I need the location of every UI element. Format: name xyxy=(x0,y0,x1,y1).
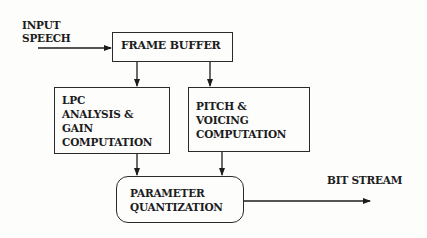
lpc-line4: COMPUTATION xyxy=(62,136,152,148)
lpc-analysis-block: LPC ANALYSIS & GAIN COMPUTATION xyxy=(54,87,170,154)
pitch-voicing-block: PITCH & VOICING COMPUTATION xyxy=(188,87,310,152)
parameter-quantization-label: PARAMETER QUANTIZATION xyxy=(130,186,223,214)
parameter-quantization-block: PARAMETER QUANTIZATION xyxy=(116,176,244,223)
lpc-line2: ANALYSIS & xyxy=(62,108,133,120)
pitch-voicing-label: PITCH & VOICING COMPUTATION xyxy=(196,99,286,141)
frame-buffer-label: FRAME BUFFER xyxy=(121,40,221,53)
input-label-line1: INPUT xyxy=(22,19,60,31)
input-label-line2: SPEECH xyxy=(22,32,71,44)
quantization-line2: QUANTIZATION xyxy=(130,201,223,213)
frame-buffer-block: FRAME BUFFER xyxy=(112,32,233,62)
pitch-line1: PITCH & xyxy=(196,100,247,112)
lpc-line3: GAIN xyxy=(62,122,93,134)
lpc-line1: LPC xyxy=(62,94,85,106)
pitch-line3: COMPUTATION xyxy=(196,128,286,140)
lpc-encoder-block-diagram: INPUT SPEECH FRAME BUFFER LPC ANALYSIS &… xyxy=(0,0,427,238)
pitch-line2: VOICING xyxy=(196,114,248,126)
input-speech-label: INPUT SPEECH xyxy=(22,19,71,44)
lpc-analysis-label: LPC ANALYSIS & GAIN COMPUTATION xyxy=(62,93,152,149)
quantization-line1: PARAMETER xyxy=(130,187,205,199)
bit-stream-label: BIT STREAM xyxy=(327,174,402,187)
